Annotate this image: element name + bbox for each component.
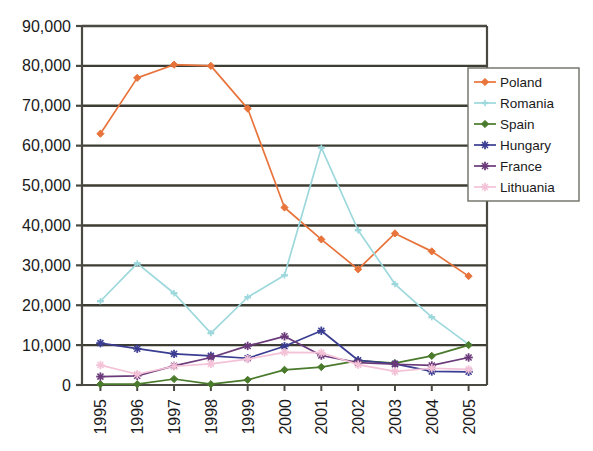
legend-item-label: Lithuania: [500, 180, 555, 195]
x-axis-tick-label: 1997: [166, 399, 183, 435]
x-axis-tick-label: 1995: [92, 399, 109, 435]
chart-legend: PolandRomaniaSpainHungaryFranceLithuania: [468, 68, 579, 201]
line-chart: 010,00020,00030,00040,00050,00060,00070,…: [0, 0, 593, 451]
legend-box: PolandRomaniaSpainHungaryFranceLithuania: [468, 68, 579, 201]
y-axis-tick-label: 50,000: [22, 177, 71, 194]
y-axis-tick-label: 80,000: [22, 57, 71, 74]
y-axis-tick-label: 20,000: [22, 297, 71, 314]
legend-item-label: Romania: [500, 96, 555, 111]
y-axis-tick-label: 90,000: [22, 18, 71, 35]
y-axis-tick-label: 30,000: [22, 257, 71, 274]
legend-item-label: Poland: [500, 75, 542, 90]
y-axis-tick-label: 70,000: [22, 97, 71, 114]
y-axis-tick-label: 0: [62, 377, 71, 394]
y-axis-tick-label: 10,000: [22, 337, 71, 354]
chart-canvas: 010,00020,00030,00040,00050,00060,00070,…: [0, 0, 593, 451]
legend-item-label: France: [500, 159, 542, 174]
x-axis-tick-label: 1998: [203, 399, 220, 435]
x-axis-tick-label: 2002: [350, 399, 367, 435]
x-axis-tick-label: 2000: [277, 399, 294, 435]
y-axis-tick-label: 40,000: [22, 217, 71, 234]
x-axis-tick-label: 2003: [387, 399, 404, 435]
x-axis-tick-label: 2004: [424, 399, 441, 435]
legend-item-label: Spain: [500, 117, 535, 132]
x-axis-tick-label: 2001: [313, 399, 330, 435]
x-axis-tick-label: 2005: [461, 399, 478, 435]
x-axis-tick-label: 1999: [240, 399, 257, 435]
legend-item-label: Hungary: [500, 138, 551, 153]
y-axis-tick-label: 60,000: [22, 137, 71, 154]
x-axis-tick-label: 1996: [129, 399, 146, 435]
